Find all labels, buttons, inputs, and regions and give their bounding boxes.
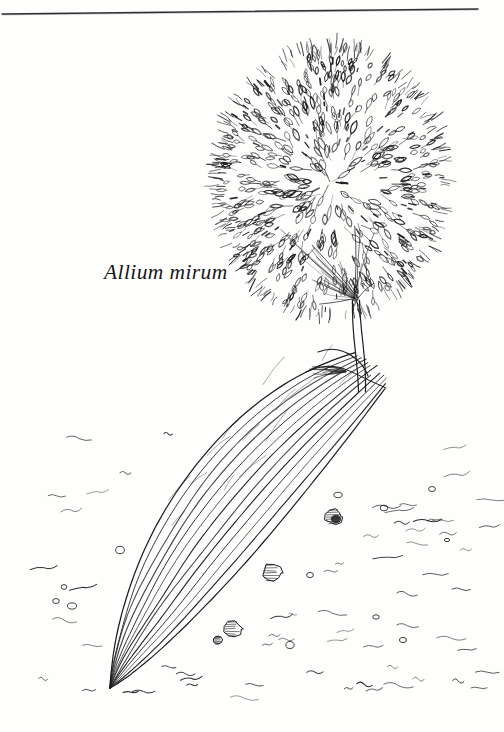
illustration-canvas <box>0 0 504 732</box>
species-name-label: Allium mirum <box>104 262 228 284</box>
botanical-plate <box>0 0 504 732</box>
